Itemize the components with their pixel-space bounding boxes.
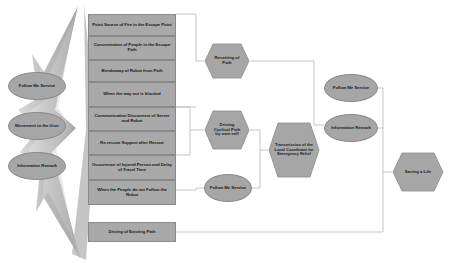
outcome-label: Saving a Life — [392, 152, 444, 192]
event-box-people-concentration[interactable]: Concentration of People in the Escape Pa… — [88, 36, 176, 60]
right-service-information-remark[interactable]: Information Remark — [324, 114, 378, 142]
action-label: Transmission of the Local Coordinate for… — [268, 122, 320, 178]
event-box-re-rescue-support[interactable]: Re-rescue Support after Rescue — [88, 131, 176, 155]
action-label: Resetting of Path — [204, 43, 250, 79]
action-transmission-local-coordinate[interactable]: Transmission of the Local Coordinate for… — [268, 122, 320, 178]
action-driving-cyclical-path[interactable]: Driving Cyclical Path by own self — [204, 110, 250, 150]
event-box-injured-person-delay[interactable]: Occurrence of Injured Person and Delay o… — [88, 155, 176, 180]
event-box-people-not-following[interactable]: When the People do not Follow the Robot — [88, 180, 176, 205]
left-service-movement-to-user[interactable]: Movement to the User — [8, 112, 66, 140]
event-box-communication-disconnect[interactable]: Communication Disconnect of Server and R… — [88, 107, 176, 131]
action-follow-me-service[interactable]: Follow Me Service — [204, 174, 252, 202]
event-box-driving-existing-path[interactable]: Driving of Existing Path — [88, 222, 176, 242]
diagram-canvas: Follow Me Service Movement to the User I… — [0, 0, 451, 263]
event-box-way-out-blocked[interactable]: When the way out is blocked — [88, 82, 176, 107]
left-service-follow-me[interactable]: Follow Me Service — [8, 72, 66, 100]
outcome-saving-a-life[interactable]: Saving a Life — [392, 152, 444, 192]
left-service-information-remark[interactable]: Information Remark — [8, 152, 66, 180]
right-service-follow-me[interactable]: Follow Me Service — [324, 74, 378, 102]
event-box-fire-source[interactable]: Point Source of Fire in the Escape Point — [88, 14, 176, 36]
action-label: Driving Cyclical Path by own self — [204, 110, 250, 150]
event-box-robot-breakaway[interactable]: Breakaway of Robot from Path — [88, 60, 176, 82]
action-resetting-of-path[interactable]: Resetting of Path — [204, 43, 250, 79]
